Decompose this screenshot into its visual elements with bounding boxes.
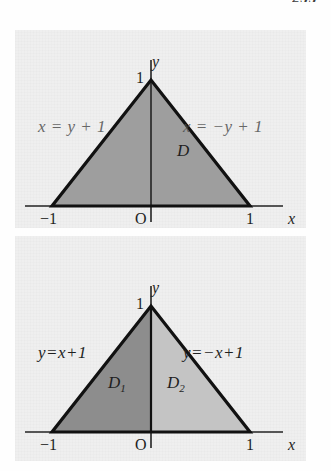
- left-edge-equation: x = y + 1: [38, 118, 106, 135]
- region-label-d2-letter: D: [167, 373, 179, 392]
- y-axis-label: y: [152, 280, 159, 296]
- figure-top-panel: y 1 x −1 O 1 x = y + 1 x = −y + 1 D: [15, 30, 306, 228]
- region-label-d: D: [177, 142, 189, 159]
- x-axis-label: x: [288, 211, 295, 227]
- figure-bottom-panel: y 1 x −1 O 1 y=x+1 y=−x+1 D1 D2: [15, 236, 306, 461]
- x-tick-minus-1: −1: [40, 437, 57, 453]
- region-label-d1-letter: D: [108, 373, 120, 392]
- x-tick-minus-1: −1: [40, 211, 57, 227]
- y-tick-1: 1: [136, 296, 144, 312]
- left-edge-equation: y=x+1: [38, 344, 87, 361]
- region-label-d2-subscript: 2: [179, 382, 185, 394]
- x-axis-label: x: [288, 437, 295, 453]
- figure-top: y 1 x −1 O 1 x = y + 1 x = −y + 1 D: [15, 30, 306, 228]
- region-label-d2: D2: [167, 374, 185, 394]
- page-number: 255: [292, 0, 318, 2]
- scanned-page: 255 y 1 x −1 O 1: [0, 0, 331, 471]
- x-tick-1: 1: [246, 437, 254, 453]
- origin-label: O: [135, 211, 147, 227]
- x-tick-1: 1: [246, 211, 254, 227]
- y-axis-label: y: [152, 54, 159, 70]
- origin-label: O: [135, 437, 147, 453]
- right-edge-equation: x = −y + 1: [183, 118, 263, 135]
- region-label-d1: D1: [108, 374, 126, 394]
- y-tick-1: 1: [136, 70, 144, 86]
- figure-bottom: y 1 x −1 O 1 y=x+1 y=−x+1 D1 D2: [15, 236, 306, 461]
- region-label-d1-subscript: 1: [120, 382, 126, 394]
- right-edge-equation: y=−x+1: [183, 344, 244, 361]
